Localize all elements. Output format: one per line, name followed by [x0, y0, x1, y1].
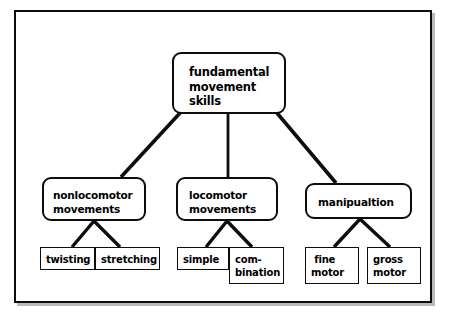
- node-label: manipualtion: [318, 196, 394, 210]
- node-label: fine motor: [311, 253, 344, 279]
- node-label: twisting: [46, 253, 90, 267]
- node-stretching[interactable]: stretching: [95, 247, 160, 270]
- node-gross-motor[interactable]: gross motor: [367, 247, 421, 284]
- node-simple[interactable]: simple: [177, 247, 229, 270]
- node-manipualtion[interactable]: manipualtion: [305, 183, 412, 219]
- node-fine-motor[interactable]: fine motor: [305, 247, 359, 284]
- node-fundamental-movement-skills[interactable]: fundamental movement skills: [172, 52, 286, 114]
- node-label: nonlocomotor movements: [53, 188, 133, 216]
- node-label: com- bination: [235, 253, 280, 279]
- node-combination[interactable]: com- bination: [229, 247, 284, 284]
- node-label: stretching: [101, 253, 157, 267]
- diagram-canvas: fundamental movement skills nonlocomotor…: [0, 0, 464, 328]
- node-nonlocomotor-movements[interactable]: nonlocomotor movements: [42, 177, 146, 221]
- node-twisting[interactable]: twisting: [40, 247, 95, 270]
- node-label: gross motor: [373, 253, 406, 279]
- node-label: fundamental movement skills: [189, 65, 269, 109]
- node-locomotor-movements[interactable]: locomotor movements: [176, 177, 278, 221]
- node-label: simple: [183, 253, 219, 267]
- node-label: locomotor movements: [189, 188, 256, 216]
